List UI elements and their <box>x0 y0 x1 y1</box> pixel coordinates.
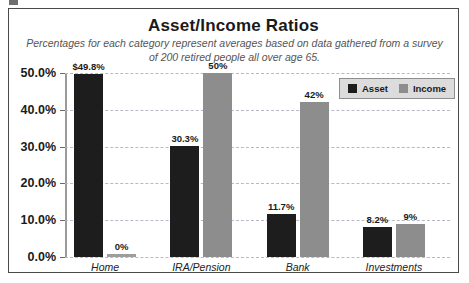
y-axis-tick <box>60 220 65 221</box>
bar-income-investments: 9% <box>396 224 425 257</box>
bar-value-label: 9% <box>404 211 418 222</box>
legend-item-asset: Asset <box>348 83 388 94</box>
bar-value-label: 8.2% <box>367 214 389 225</box>
chart-legend: AssetIncome <box>339 78 455 99</box>
bar-value-label: 50% <box>208 60 227 71</box>
y-axis-tick <box>60 147 65 148</box>
bar-value-label: 42% <box>305 89 324 100</box>
gridline <box>65 73 450 74</box>
bar-asset-home: $49.8% <box>74 74 103 257</box>
y-axis-tick <box>60 257 65 258</box>
legend-label: Income <box>413 83 446 94</box>
y-axis-tick-label: 10.0% <box>21 213 56 227</box>
bar-value-label: $49.8% <box>73 61 105 72</box>
legend-swatch-income <box>399 84 408 93</box>
bar-asset-investments: 8.2% <box>363 227 392 257</box>
y-axis-tick-label: 20.0% <box>21 176 56 190</box>
bar-value-label: 30.3% <box>171 133 198 144</box>
x-axis-category-label: Home <box>91 261 119 273</box>
gridline <box>65 220 450 221</box>
plot-area: 0.0%10.0%20.0%30.0%40.0%50.0% $49.8%0%30… <box>65 73 450 257</box>
bar-value-label: 11.7% <box>268 201 294 212</box>
bar-asset-ira-pension: 30.3% <box>170 146 199 258</box>
bar-income-home: 0% <box>107 254 136 257</box>
bar-income-bank: 42% <box>300 102 329 257</box>
y-axis-tick-label: 0.0% <box>28 250 57 264</box>
y-axis-tick <box>60 73 65 74</box>
x-axis-category-label: Investments <box>366 261 423 273</box>
legend-label: Asset <box>362 83 388 94</box>
y-axis-line <box>65 73 67 257</box>
y-axis-tick-label: 50.0% <box>21 66 56 80</box>
chart-container: Asset/Income Ratios Percentages for each… <box>8 8 459 273</box>
y-axis-tick <box>60 183 65 184</box>
chart-title: Asset/Income Ratios <box>9 16 458 36</box>
bar-asset-bank: 11.7% <box>267 214 296 257</box>
y-axis-tick <box>60 110 65 111</box>
y-axis-tick-label: 30.0% <box>21 140 56 154</box>
bar-value-label: 0% <box>115 241 129 252</box>
legend-swatch-asset <box>348 84 357 93</box>
legend-item-income: Income <box>399 83 446 94</box>
gridline <box>65 147 450 148</box>
scan-artifact <box>9 0 18 5</box>
y-axis-tick-label: 40.0% <box>21 103 56 117</box>
gridline <box>65 110 450 111</box>
gridline <box>65 183 450 184</box>
x-axis-category-label: IRA/Pension <box>172 261 230 273</box>
gridline <box>65 257 450 258</box>
x-axis-category-label: Bank <box>286 261 310 273</box>
bar-income-ira-pension: 50% <box>203 73 232 257</box>
